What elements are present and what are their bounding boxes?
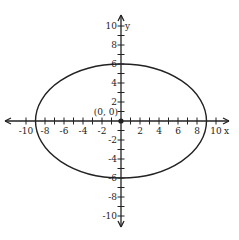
y-tick-label: 4: [111, 78, 117, 88]
x-tick-label: 8: [194, 126, 200, 136]
y-tick-label: -4: [108, 154, 117, 164]
x-tick-label: 6: [175, 126, 181, 136]
x-axis-label: x: [224, 126, 229, 136]
x-tick-label: -8: [41, 126, 50, 136]
x-tick-label: -4: [79, 126, 88, 136]
x-tick-label: 10: [210, 126, 222, 136]
ellipse-graph: -10-8-6-4-2246810108642-2-4-6-8-10xy(0, …: [0, 0, 239, 240]
x-tick-label: -10: [19, 126, 34, 136]
y-tick-label: -10: [103, 211, 118, 221]
plot-canvas: -10-8-6-4-2246810108642-2-4-6-8-10xy(0, …: [0, 0, 239, 240]
x-tick-label: 4: [156, 126, 162, 136]
y-tick-label: 10: [106, 21, 118, 31]
origin-label: (0, 0): [94, 107, 118, 117]
y-tick-label: 2: [111, 97, 117, 107]
origin-point: [118, 118, 123, 123]
axes: [5, 15, 229, 227]
y-axis-label: y: [124, 21, 131, 31]
y-tick-label: -8: [108, 192, 117, 202]
y-tick-label: 8: [111, 40, 117, 50]
y-tick-label: 6: [111, 59, 117, 69]
y-tick-label: -6: [108, 173, 117, 183]
x-tick-label: -2: [98, 126, 107, 136]
y-tick-label: -2: [108, 135, 117, 145]
x-tick-label: -6: [60, 126, 69, 136]
x-tick-label: 2: [137, 126, 143, 136]
